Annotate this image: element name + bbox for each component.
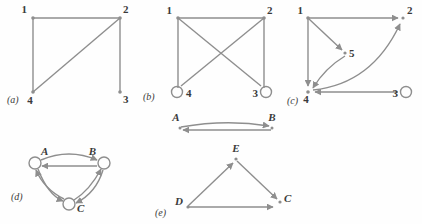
panel-b-edges [178,18,264,88]
node-label-E: E [231,142,239,154]
edge-2-4 [181,18,264,86]
self-loop-node-3 [261,87,272,98]
panel-b: 1 2 3 4 (b) [143,4,273,103]
graph-figure-svg: 1 2 3 4 (a) 1 2 3 4 ( [0,0,422,224]
node-label-B: B [88,145,96,157]
panel-ab: A B [171,111,275,130]
panel-d-edges [36,154,103,203]
node-label-2: 2 [123,3,129,15]
panel-label-c: (c) [287,95,299,107]
node-label-C: C [284,192,292,204]
node-label-1: 1 [167,4,173,16]
node-label-B: B [267,111,275,123]
node-label-A: A [40,145,48,157]
panel-e-edges [188,161,277,207]
node-label-D: D [174,195,183,207]
panel-e-nodes [186,157,281,208]
edge-1-5 [309,19,342,50]
panel-ab-edges [181,123,271,130]
node-label-3: 3 [123,93,129,105]
panel-label-e: (e) [155,207,167,219]
node-dot-A [179,127,182,130]
node-circle-A [29,157,41,169]
node-label-3: 3 [393,87,399,99]
node-label-4: 4 [186,87,192,99]
node-label-5: 5 [349,47,355,59]
panel-label-d: (d) [11,191,23,203]
node-dot-3 [118,90,122,94]
panel-b-nodes [172,16,272,97]
panel-ab-nodes [179,127,274,130]
node-dot-1 [31,16,35,20]
node-label-C: C [77,202,85,214]
node-label-A: A [171,111,179,123]
node-dot-2 [262,16,266,20]
node-dot-2 [401,16,404,19]
node-circle-C [63,198,75,210]
edge-A-B [181,123,269,127]
self-loop-node-4 [172,87,183,98]
edge-2-4 [33,18,120,92]
panel-label-b: (b) [143,91,155,103]
node-label-1: 1 [22,3,28,15]
panel-label-a: (a) [7,94,19,106]
node-circle-B [98,157,110,169]
node-dot-C [278,200,281,203]
panel-a-edges [33,18,120,92]
node-label-3: 3 [253,87,259,99]
node-label-1: 1 [298,4,304,16]
node-label-4: 4 [27,94,33,106]
node-dot-2 [118,16,122,20]
panel-a: 1 2 3 4 (a) [7,3,129,106]
self-loop-node-3 [401,87,412,98]
edge-1-3 [178,18,261,86]
edge-D-E [188,163,233,206]
node-dot-B [271,127,274,130]
panel-d: A B C (d) [11,145,110,214]
node-dot-1 [176,16,180,20]
node-dot-E [234,157,237,160]
panel-e: D E C (e) [155,142,292,219]
node-label-2: 2 [407,4,413,16]
panel-c-nodes [306,16,411,97]
node-dot-5 [343,51,346,54]
node-label-4: 4 [303,93,309,105]
panel-c: 1 2 3 4 5 (c) [287,4,413,107]
figure-canvas: 1 2 3 4 (a) 1 2 3 4 ( [0,0,422,224]
edge-4-2 [313,24,400,90]
node-label-2: 2 [267,4,273,16]
node-dot-1 [306,16,310,20]
node-dot-D [186,205,189,208]
edge-E-C [237,161,277,199]
